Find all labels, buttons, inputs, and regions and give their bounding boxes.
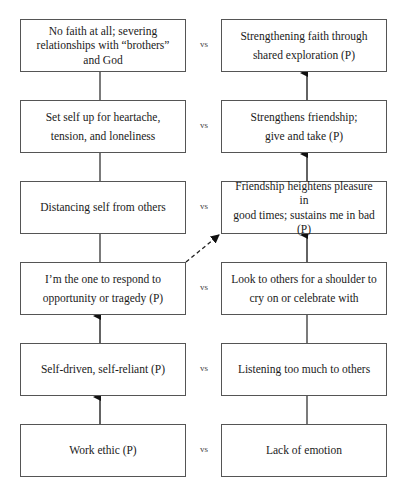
box-right-1: Strengthening faith through shared explo… <box>221 19 387 72</box>
box-right-4-text: Look to others for a shoulder to cry on … <box>231 270 377 308</box>
box-left-6-text: Work ethic (P) <box>69 443 136 458</box>
vs-label-1: vs <box>196 39 212 49</box>
box-left-2-text: Set self up for heartache, tension, and … <box>46 108 161 146</box>
vs-label-4: vs <box>196 282 212 292</box>
box-right-2: Strengthens friendship; give and take (P… <box>221 100 387 153</box>
box-right-2-text: Strengthens friendship; give and take (P… <box>251 108 358 146</box>
box-right-5: Listening too much to others <box>221 343 387 396</box>
box-right-6-text: Lack of emotion <box>266 443 342 458</box>
box-left-1: No faith at all; severing relationships … <box>20 19 186 72</box>
box-left-4: I’m the one to respond to opportunity or… <box>20 262 186 315</box>
vs-label-2: vs <box>196 120 212 130</box>
box-left-6: Work ethic (P) <box>20 424 186 477</box>
connectors <box>0 0 406 491</box>
box-left-1-text: No faith at all; severing relationships … <box>37 24 170 68</box>
box-left-5-text: Self-driven, self-reliant (P) <box>41 362 165 377</box>
box-right-1-text: Strengthening faith through shared explo… <box>240 27 367 65</box>
box-right-3: Friendship heightens pleasure in good ti… <box>221 181 387 234</box>
box-left-3-text: Distancing self from others <box>40 200 166 215</box>
box-left-3: Distancing self from others <box>20 181 186 234</box>
box-right-5-text: Listening too much to others <box>238 362 370 377</box>
vs-label-3: vs <box>196 201 212 211</box>
vs-label-6: vs <box>196 444 212 454</box>
box-right-3-text: Friendship heightens pleasure in good ti… <box>230 179 378 237</box>
box-left-5: Self-driven, self-reliant (P) <box>20 343 186 396</box>
connector-dashed-left4-right3 <box>186 235 219 262</box>
box-right-4: Look to others for a shoulder to cry on … <box>221 262 387 315</box>
box-left-4-text: I’m the one to respond to opportunity or… <box>43 270 163 308</box>
vs-label-5: vs <box>196 363 212 373</box>
box-left-2: Set self up for heartache, tension, and … <box>20 100 186 153</box>
box-right-6: Lack of emotion <box>221 424 387 477</box>
